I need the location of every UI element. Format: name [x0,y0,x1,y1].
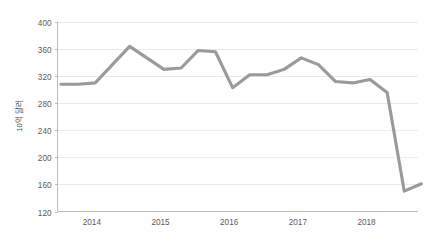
y-tick-label: 240 [38,127,52,136]
caption-band [28,231,228,235]
y-axis-title: 10억 달러 [15,100,24,132]
y-tick-label: 360 [38,46,52,55]
line-chart: 120160200240280320360400 201420152016201… [0,0,426,242]
y-tick-label: 280 [38,100,52,109]
y-tick-label: 120 [38,209,52,218]
y-tick-label: 320 [38,73,52,82]
x-tick-label: 2015 [151,218,170,227]
chart-container: 120160200240280320360400 201420152016201… [0,0,426,242]
y-tick-label: 200 [38,154,52,163]
y-tick-label: 400 [38,19,52,28]
y-tick-label: 160 [38,181,52,190]
x-tick-label: 2017 [289,218,308,227]
x-tick-label: 2016 [220,218,239,227]
x-tick-label: 2018 [357,218,376,227]
x-tick-label: 2014 [83,218,102,227]
chart-background [0,0,426,242]
